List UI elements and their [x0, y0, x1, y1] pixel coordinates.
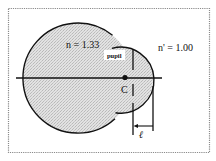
label-center-c: C — [121, 84, 128, 95]
label-n-outside: n' = 1.00 — [158, 42, 193, 53]
eye-diagram-figure: n = 1.33 pupil n' = 1.00 C ℓ — [0, 0, 216, 161]
label-pupil: pupil — [107, 52, 122, 59]
label-n-inside: n = 1.33 — [66, 39, 99, 50]
center-point-dot — [122, 75, 127, 80]
distance-arrow — [134, 124, 154, 128]
label-distance-l: ℓ — [139, 129, 143, 140]
eye-diagram-svg: n = 1.33 pupil n' = 1.00 C ℓ — [0, 0, 216, 161]
eye-body — [20, 20, 160, 140]
